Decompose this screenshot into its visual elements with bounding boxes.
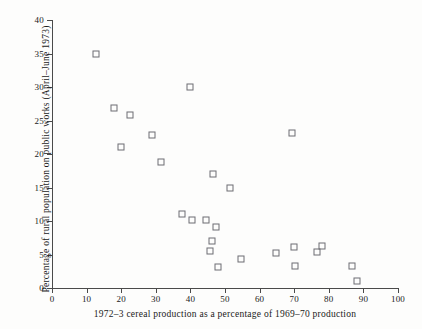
x-tick — [87, 288, 88, 293]
x-tick — [363, 288, 364, 293]
data-point-marker — [348, 262, 355, 269]
data-point-marker — [92, 50, 99, 57]
x-tick-label: 30 — [151, 294, 160, 304]
data-point-marker — [206, 248, 213, 255]
y-axis-line — [52, 20, 53, 288]
data-point-marker — [209, 171, 216, 178]
x-tick-label: 20 — [116, 294, 125, 304]
x-tick-label: 100 — [391, 294, 405, 304]
y-tick-label: 40 — [35, 15, 44, 25]
scatter-plot-figure: 0102030405060708090100 0510152025303540 … — [0, 0, 422, 329]
data-point-marker — [292, 262, 299, 269]
data-point-marker — [213, 224, 220, 231]
x-tick-label: 80 — [324, 294, 333, 304]
data-point-marker — [314, 249, 321, 256]
data-point-marker — [291, 244, 298, 251]
x-tick-label: 70 — [289, 294, 298, 304]
data-point-marker — [157, 159, 164, 166]
data-point-marker — [179, 211, 186, 218]
data-point-marker — [227, 184, 234, 191]
x-tick-label: 10 — [82, 294, 91, 304]
data-point-marker — [208, 238, 215, 245]
x-tick-label: 40 — [186, 294, 195, 304]
data-point-marker — [203, 216, 210, 223]
x-tick — [225, 288, 226, 293]
data-point-marker — [189, 216, 196, 223]
data-point-marker — [273, 250, 280, 257]
data-point-marker — [148, 132, 155, 139]
x-tick-label: 60 — [255, 294, 264, 304]
x-tick — [52, 288, 53, 293]
x-tick — [260, 288, 261, 293]
data-point-marker — [110, 104, 117, 111]
x-axis-title: 1972–3 cereal production as a percentage… — [52, 309, 398, 319]
x-tick — [329, 288, 330, 293]
y-axis-title: Percentage of rural population on public… — [41, 25, 51, 293]
x-tick-label: 50 — [220, 294, 229, 304]
x-tick — [294, 288, 295, 293]
data-point-marker — [214, 263, 221, 270]
x-tick-label: 90 — [359, 294, 368, 304]
data-point-marker — [318, 243, 325, 250]
data-point-marker — [353, 278, 360, 285]
data-point-marker — [187, 84, 194, 91]
x-tick — [190, 288, 191, 293]
x-tick-label: 0 — [50, 294, 55, 304]
x-tick — [398, 288, 399, 293]
data-point-marker — [237, 256, 244, 263]
data-point-marker — [289, 130, 296, 137]
plot-data-area — [0, 0, 422, 329]
data-point-marker — [117, 144, 124, 151]
data-point-marker — [126, 112, 133, 119]
x-tick — [156, 288, 157, 293]
x-tick — [121, 288, 122, 293]
y-tick — [47, 20, 52, 21]
